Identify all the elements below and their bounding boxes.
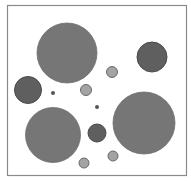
circle-diagram (0, 0, 191, 181)
circle-light-lower-right (108, 151, 118, 161)
circle-light-lower-left (79, 158, 89, 168)
circle-large-bottom-left (26, 108, 81, 163)
circle-large-bottom-right (113, 92, 175, 154)
circle-dark-top-right (137, 42, 167, 72)
circle-large-top-left (37, 23, 97, 83)
circle-light-middle (81, 85, 92, 96)
circle-light-upper (107, 67, 118, 78)
circle-dark-center-bottom (88, 124, 106, 142)
circle-dark-left (15, 77, 42, 104)
circle-dot-center (95, 105, 99, 109)
circle-dot-left (51, 91, 55, 95)
